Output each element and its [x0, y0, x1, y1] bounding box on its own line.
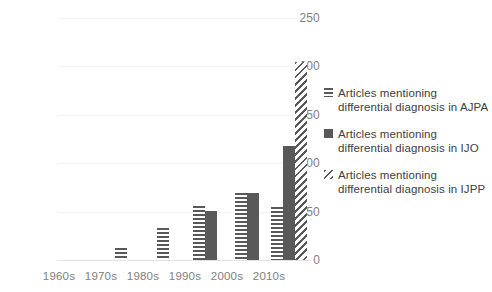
bar-ijo-2010s: [283, 146, 295, 260]
bar-ajpa-2010s: [271, 207, 283, 260]
bar-ajpa-2000s: [235, 193, 247, 260]
bar-ajpa-1990s: [193, 206, 205, 260]
legend: Articles mentioning differential diagnos…: [324, 86, 492, 209]
horizontal-stripes-swatch-icon: [324, 88, 333, 97]
diagonal-stripes-swatch-icon: [324, 170, 333, 179]
legend-item-ijpp: Articles mentioning differential diagnos…: [324, 168, 492, 196]
bar-ajpa-1980s: [157, 228, 169, 260]
legend-item-ajpa: Articles mentioning differential diagnos…: [324, 86, 492, 114]
bar-group-1980s: [142, 32, 184, 260]
bar-ijo-2000s: [247, 193, 259, 261]
legend-label-ajpa: Articles mentioning differential diagnos…: [338, 86, 492, 114]
legend-label-ijo: Articles mentioning differential diagnos…: [338, 127, 492, 155]
bar-group-1960s: [58, 32, 100, 260]
bar-group-2000s: [226, 32, 268, 260]
bar-group-1970s: [100, 32, 142, 260]
solid-square-swatch-icon: [324, 129, 333, 138]
bar-ijpp-2010s: [295, 62, 307, 260]
bars-layer: [58, 0, 312, 292]
chart-screenshot: 250 200 150 100 50 0 1960s 1970s 1980s 1…: [0, 0, 492, 292]
legend-item-ijo: Articles mentioning differential diagnos…: [324, 127, 492, 155]
x-tick-label-2010s: 2010s: [239, 270, 299, 282]
bar-group-2010s: [268, 32, 310, 260]
bar-ajpa-1970s: [115, 248, 127, 260]
legend-label-ijpp: Articles mentioning differential diagnos…: [338, 168, 492, 196]
plot-area: 250 200 150 100 50 0 1960s 1970s 1980s 1…: [0, 0, 320, 292]
bar-group-1990s: [184, 32, 226, 260]
bar-ijo-1990s: [205, 211, 217, 260]
